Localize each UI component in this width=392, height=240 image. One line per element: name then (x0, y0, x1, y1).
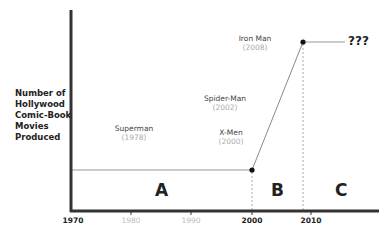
annotation-xmen: X-Men (2000) (196, 128, 266, 146)
annotation-ironman: Iron Man (2008) (220, 34, 290, 52)
region-c: C (335, 180, 347, 200)
region-a: A (155, 180, 168, 200)
annotation-superman: Superman (1978) (99, 124, 169, 142)
x-tick-2000: 2000 (237, 216, 267, 225)
future-label: ??? (348, 34, 369, 48)
x-tick-2010: 2010 (296, 216, 326, 225)
y-axis-label: Number of Hollywood Comic-Book Movies Pr… (15, 88, 75, 143)
point-2000 (249, 167, 254, 172)
x-tick-1970: 1970 (58, 216, 88, 225)
region-b: B (271, 180, 284, 200)
annotation-spiderman: Spider-Man (2002) (190, 94, 260, 112)
x-tick-1990: 1990 (176, 216, 206, 225)
point-2008 (300, 39, 305, 44)
x-tick-1980: 1980 (116, 216, 146, 225)
